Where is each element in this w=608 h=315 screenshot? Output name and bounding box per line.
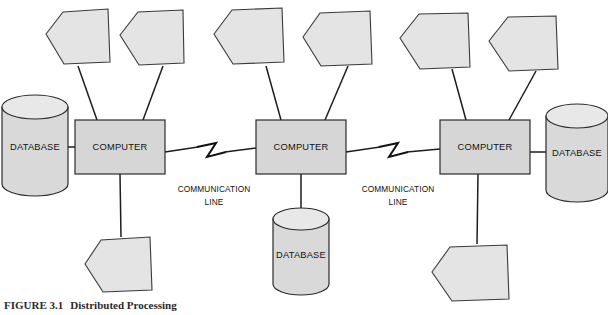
terminal-6[interactable]	[489, 16, 558, 71]
database-left-label: DATABASE	[10, 142, 60, 152]
comm-link-right-label-line1: COMMUNICATION	[362, 184, 435, 194]
comm-link-right-label: COMMUNICATION LINE	[362, 184, 435, 207]
link-terminal-6-computer-right	[509, 71, 536, 120]
terminal-4[interactable]	[303, 11, 372, 66]
link-computer-left-terminal-7	[120, 174, 121, 237]
computer-center[interactable]: COMPUTER	[256, 120, 346, 174]
database-right-top	[546, 104, 608, 128]
terminal-group-top	[46, 8, 558, 71]
terminal-2[interactable]	[120, 10, 184, 65]
figure-number: FIGURE 3.1	[4, 299, 63, 311]
database-center[interactable]: DATABASE	[273, 208, 329, 295]
link-terminal-5-computer-right	[452, 69, 466, 120]
computer-left[interactable]: COMPUTER	[75, 120, 165, 174]
computer-right-label: COMPUTER	[458, 142, 513, 152]
terminal-1[interactable]	[46, 9, 110, 64]
link-terminal-2-computer-left	[143, 66, 163, 120]
comm-link-left-label-line1: COMMUNICATION	[178, 184, 251, 194]
figure-caption: FIGURE 3.1Distributed Processing	[4, 299, 177, 315]
link-terminal-4-computer-center	[325, 66, 348, 120]
comm-segment-left-b	[225, 148, 256, 152]
database-right-label: DATABASE	[552, 148, 602, 158]
terminal-5[interactable]	[400, 13, 470, 69]
comm-segment-right-a	[346, 147, 380, 152]
computer-center-label: COMPUTER	[274, 142, 329, 152]
lightning-bolt-left	[197, 143, 226, 157]
comm-link-left-label-line2: LINE	[205, 197, 224, 207]
link-terminal-3-computer-center	[266, 66, 281, 120]
lightning-bolt-right	[379, 143, 408, 157]
computer-left-label: COMPUTER	[93, 142, 148, 152]
comm-link-right-label-line2: LINE	[389, 197, 408, 207]
database-left-top	[2, 95, 68, 119]
link-computer-right-terminal-8	[477, 174, 478, 244]
comm-link-left-label: COMMUNICATION LINE	[178, 184, 251, 207]
database-center-top	[273, 208, 329, 230]
database-right[interactable]: DATABASE	[546, 104, 608, 202]
distributed-processing-diagram: DATABASE DATABASE DATABASE COMPUTER COMP…	[0, 0, 608, 315]
terminal-3[interactable]	[214, 8, 284, 64]
link-terminal-1-computer-left	[78, 66, 97, 120]
database-right-body	[546, 116, 608, 202]
figure-title: Distributed Processing	[70, 299, 176, 311]
diagram-canvas: DATABASE DATABASE DATABASE COMPUTER COMP…	[0, 0, 608, 315]
database-left[interactable]: DATABASE	[2, 95, 68, 196]
computer-right[interactable]: COMPUTER	[440, 120, 530, 174]
comm-segment-right-b	[407, 149, 440, 152]
database-center-label: DATABASE	[276, 250, 326, 260]
terminal-7[interactable]	[85, 237, 152, 292]
comm-segment-left-a	[165, 147, 198, 152]
terminal-8[interactable]	[432, 245, 509, 301]
